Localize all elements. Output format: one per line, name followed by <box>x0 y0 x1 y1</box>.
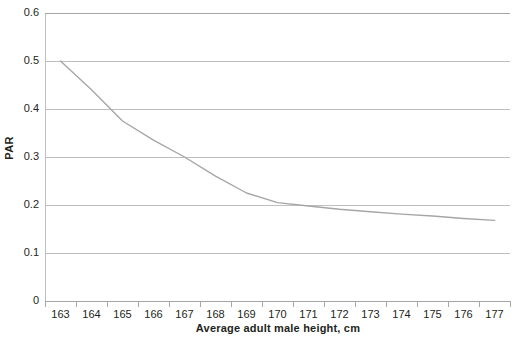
x-axis-tick <box>76 301 77 307</box>
y-axis-tick-label: 0 <box>5 295 39 306</box>
y-axis-tick-label: 0.2 <box>5 199 39 210</box>
x-axis-tick <box>448 301 449 307</box>
x-axis-tick-label: 177 <box>475 308 515 321</box>
x-axis-tick <box>417 301 418 307</box>
x-axis-tick <box>355 301 356 307</box>
x-axis-tick <box>107 301 108 307</box>
x-axis-tick <box>169 301 170 307</box>
x-axis-tick <box>231 301 232 307</box>
x-axis-tick <box>324 301 325 307</box>
x-axis-tick <box>200 301 201 307</box>
y-axis-tick-label: 0.4 <box>5 103 39 114</box>
x-axis-tick <box>293 301 294 307</box>
x-axis-tick <box>138 301 139 307</box>
y-axis-tick-label: 0.6 <box>5 7 39 18</box>
x-axis-ticks <box>45 301 511 308</box>
x-axis-tick <box>386 301 387 307</box>
y-axis-tick-label: 0.3 <box>5 151 39 162</box>
chart-container: PAR 0.60.50.40.30.20.10 1631641651661671… <box>0 0 520 342</box>
x-axis-tick <box>510 301 511 307</box>
data-line <box>61 61 495 220</box>
y-axis-tick-labels: 0.60.50.40.30.20.10 <box>0 0 39 342</box>
x-axis-tick-labels: 1631641651661671681691701711721731741751… <box>45 308 511 322</box>
y-axis-tick-label: 0.5 <box>5 55 39 66</box>
plot-area <box>45 13 510 301</box>
x-axis-tick <box>45 301 46 307</box>
x-axis-title: Average adult male height, cm <box>45 322 511 334</box>
x-axis-tick <box>262 301 263 307</box>
par-line-series <box>45 13 510 301</box>
x-axis-tick <box>479 301 480 307</box>
y-axis-tick-label: 0.1 <box>5 247 39 258</box>
